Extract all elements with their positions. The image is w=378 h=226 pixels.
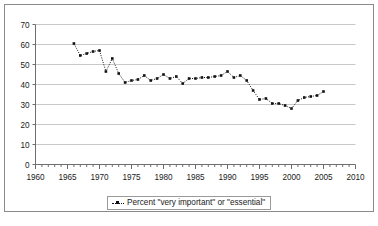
gridlines: [36, 25, 356, 145]
data-point-marker: [322, 90, 325, 93]
x-tick-label: 1975: [122, 173, 141, 182]
y-tick-label: 50: [20, 61, 30, 70]
data-point-marker: [79, 54, 82, 57]
data-point-marker: [284, 104, 287, 107]
data-point-marker: [297, 99, 300, 102]
data-point-marker: [265, 97, 268, 100]
data-point-marker: [194, 77, 197, 80]
y-tick-label: 70: [20, 21, 30, 30]
data-point-marker: [290, 107, 293, 110]
data-point-marker: [258, 98, 261, 101]
x-tick-label: 1965: [58, 173, 77, 182]
y-tick-label: 20: [20, 121, 30, 130]
data-point-marker: [303, 96, 306, 99]
data-point-marker: [188, 77, 191, 80]
y-tick-label: 10: [20, 141, 30, 150]
y-tick-label: 0: [25, 161, 30, 170]
y-tick-label: 30: [20, 101, 30, 110]
data-point-marker: [233, 76, 236, 79]
data-point-marker: [207, 76, 210, 79]
y-tick-label: 40: [20, 81, 30, 90]
data-point-marker: [271, 102, 274, 105]
data-point-marker: [130, 79, 133, 82]
x-tick-label: 2010: [346, 173, 365, 182]
data-point-marker: [124, 81, 127, 84]
data-point-marker: [316, 94, 319, 97]
x-tick-label: 1990: [218, 173, 237, 182]
x-major-ticks: [36, 165, 356, 170]
chart-figure: 010203040506070 196019651970197519801985…: [0, 0, 378, 226]
data-point-marker: [213, 75, 216, 78]
legend-entry-label: Percent "very important" or "essential": [127, 198, 265, 208]
y-tick-label: 60: [20, 41, 30, 50]
data-point-marker: [201, 76, 204, 79]
data-point-marker: [111, 57, 114, 60]
data-point-marker: [156, 77, 159, 80]
data-point-marker: [239, 74, 242, 77]
series-line-percent-very-important: [74, 44, 324, 109]
x-tick-label: 1970: [90, 173, 109, 182]
data-point-marker: [137, 78, 140, 81]
data-point-marker: [252, 89, 255, 92]
data-point-marker: [169, 77, 172, 80]
data-point-marker: [73, 42, 76, 45]
x-tick-label: 1960: [26, 173, 45, 182]
line-marker-icon: [112, 199, 124, 208]
data-point-marker: [220, 74, 223, 77]
y-axis-tick-labels: 010203040506070: [20, 21, 30, 170]
data-point-marker: [143, 74, 146, 77]
data-point-marker: [162, 73, 165, 76]
data-point-marker: [92, 50, 95, 53]
data-point-marker: [105, 70, 108, 73]
series-markers-percent-very-important: [73, 42, 325, 110]
data-point-marker: [117, 72, 120, 75]
chart-legend: Percent "very important" or "essential": [107, 196, 271, 210]
data-point-marker: [149, 79, 152, 82]
data-point-marker: [85, 52, 88, 55]
x-tick-label: 1980: [154, 173, 173, 182]
x-tick-label: 1995: [250, 173, 269, 182]
x-axis-tick-labels: 1960196519701975198019851990199520002005…: [26, 173, 365, 182]
data-point-marker: [226, 70, 229, 73]
data-point-marker: [277, 102, 280, 105]
x-tick-label: 2005: [314, 173, 333, 182]
data-point-marker: [181, 82, 184, 85]
data-point-marker: [98, 49, 101, 52]
data-point-marker: [175, 75, 178, 78]
chart-plot: 010203040506070 196019651970197519801985…: [0, 0, 378, 226]
x-tick-label: 2000: [282, 173, 301, 182]
x-tick-label: 1985: [186, 173, 205, 182]
data-point-marker: [245, 79, 248, 82]
data-point-marker: [309, 95, 312, 98]
